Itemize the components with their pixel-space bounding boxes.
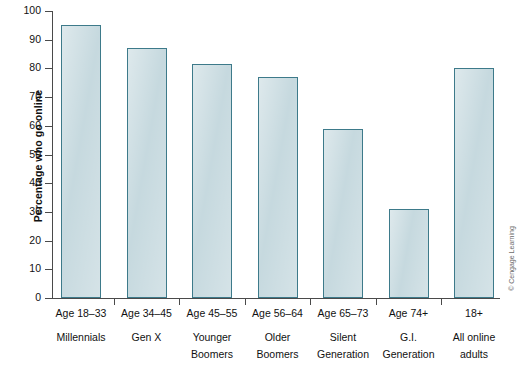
y-tick-label-50: 50 bbox=[29, 148, 41, 160]
category-age-range: 18+ bbox=[441, 305, 507, 321]
category-age-range: Age 56–64 bbox=[245, 305, 311, 321]
category-age-range: Age 34–45 bbox=[114, 305, 180, 321]
y-tick-20: 20 bbox=[45, 241, 52, 242]
y-tick-label-80: 80 bbox=[29, 61, 41, 73]
bar-sheen bbox=[390, 210, 428, 297]
category-generation-line2: Boomers bbox=[179, 346, 245, 362]
category-generation-line1: Silent bbox=[310, 329, 376, 345]
y-tick-label-60: 60 bbox=[29, 119, 41, 131]
copyright-credit: © Cengage Learning bbox=[508, 214, 515, 304]
y-tick-label-10: 10 bbox=[29, 262, 41, 274]
category-generation-line1: Millennials bbox=[48, 329, 114, 345]
y-tick-label-30: 30 bbox=[29, 205, 41, 217]
y-tick-40: 40 bbox=[45, 183, 52, 184]
y-tick-label-20: 20 bbox=[29, 234, 41, 246]
bar-sheen bbox=[128, 49, 166, 297]
category-age-range: Age 18–33 bbox=[48, 305, 114, 321]
y-tick-label-90: 90 bbox=[29, 33, 41, 45]
category-generation-line1: Older bbox=[245, 329, 311, 345]
category-label: Age 74+G.I.Generation bbox=[376, 305, 442, 362]
bar-sheen bbox=[324, 130, 362, 297]
category-label: 18+All onlineadults bbox=[441, 305, 507, 362]
bar-sheen bbox=[193, 65, 231, 297]
category-label: Age 65–73SilentGeneration bbox=[310, 305, 376, 362]
bar-sheen bbox=[62, 26, 100, 297]
y-tick-50: 50 bbox=[45, 155, 52, 156]
category-generation-line2: Boomers bbox=[245, 346, 311, 362]
category-generation-line1: All online bbox=[441, 329, 507, 345]
bar-sheen bbox=[259, 78, 297, 297]
y-tick-10: 10 bbox=[45, 269, 52, 270]
category-generation-line2: adults bbox=[441, 346, 507, 362]
plot-area: 0102030405060708090100 bbox=[52, 11, 500, 298]
bar bbox=[61, 25, 101, 298]
y-tick-label-70: 70 bbox=[29, 90, 41, 102]
category-generation-line2: Generation bbox=[310, 346, 376, 362]
y-tick-label-0: 0 bbox=[35, 291, 41, 303]
category-label: Age 34–45Gen X bbox=[114, 305, 180, 346]
category-generation-line1: G.I. bbox=[376, 329, 442, 345]
y-tick-70: 70 bbox=[45, 97, 52, 98]
y-tick-80: 80 bbox=[45, 68, 52, 69]
y-tick-label-100: 100 bbox=[23, 4, 41, 16]
y-tick-30: 30 bbox=[45, 212, 52, 213]
y-tick-100: 100 bbox=[45, 11, 52, 12]
y-tick-0: 0 bbox=[45, 298, 52, 299]
x-axis-line bbox=[52, 298, 500, 299]
bar bbox=[192, 64, 232, 298]
category-generation-line1: Gen X bbox=[114, 329, 180, 345]
category-age-range: Age 65–73 bbox=[310, 305, 376, 321]
y-tick-label-40: 40 bbox=[29, 176, 41, 188]
category-label: Age 56–64OlderBoomers bbox=[245, 305, 311, 362]
bar bbox=[454, 68, 494, 298]
category-age-range: Age 74+ bbox=[376, 305, 442, 321]
y-axis-line bbox=[52, 11, 53, 299]
bar-sheen bbox=[455, 69, 493, 297]
category-label: Age 45–55YoungerBoomers bbox=[179, 305, 245, 362]
bar-chart: Percentage who go online 010203040506070… bbox=[0, 0, 528, 365]
bar bbox=[389, 209, 429, 298]
bar bbox=[258, 77, 298, 298]
y-tick-90: 90 bbox=[45, 40, 52, 41]
bar bbox=[323, 129, 363, 298]
y-tick-60: 60 bbox=[45, 126, 52, 127]
category-age-range: Age 45–55 bbox=[179, 305, 245, 321]
category-generation-line1: Younger bbox=[179, 329, 245, 345]
bar bbox=[127, 48, 167, 298]
category-label: Age 18–33Millennials bbox=[48, 305, 114, 346]
category-generation-line2: Generation bbox=[376, 346, 442, 362]
